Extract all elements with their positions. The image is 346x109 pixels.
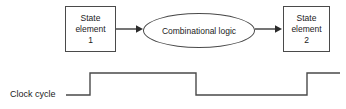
state-element-2-line-1: State <box>297 13 317 24</box>
combinational-logic-label: Combinational logic <box>162 26 236 36</box>
state-element-1-box: State element 1 <box>65 6 116 52</box>
arrow-logic-to-state2-icon <box>255 22 283 36</box>
clock-cycle-waveform <box>0 60 346 109</box>
diagram-canvas: State element 1 Combinational logic Stat… <box>0 0 346 109</box>
state-element-1-line-3: 1 <box>88 35 93 46</box>
state-element-2-line-2: element <box>291 24 321 35</box>
combinational-logic-ellipse: Combinational logic <box>143 13 255 48</box>
state-element-2-box: State element 2 <box>283 6 330 52</box>
arrow-state1-to-logic-icon <box>116 22 144 36</box>
state-element-1-line-1: State <box>81 13 101 24</box>
clock-cycle-trace <box>66 73 340 95</box>
state-element-1-line-2: element <box>75 24 105 35</box>
state-element-2-line-3: 2 <box>304 35 309 46</box>
